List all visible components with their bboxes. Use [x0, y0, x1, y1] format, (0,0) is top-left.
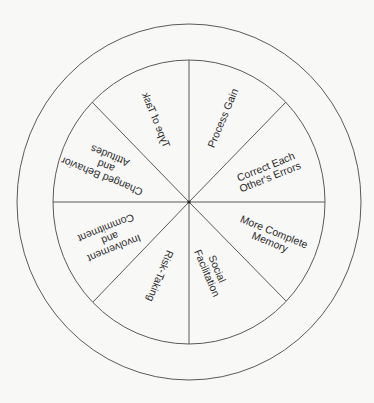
wheel-diagram	[0, 0, 374, 403]
center-dot	[187, 200, 190, 203]
spoke-up-right	[189, 102, 286, 202]
